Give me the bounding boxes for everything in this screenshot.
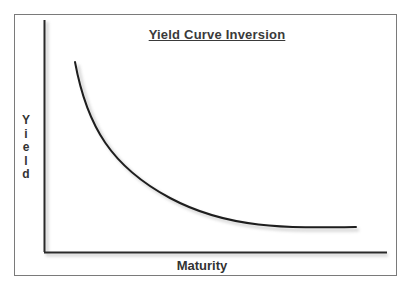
chart-plot-area [0,0,413,288]
yield-curve-line [75,62,356,227]
y-axis-label-letter: Y [22,114,30,128]
y-axis-label-letter: i [24,128,27,142]
chart-title: Yield Curve Inversion [139,27,295,42]
curve-shadow [78,65,359,230]
y-axis-label-letter: e [23,141,30,155]
y-axis-label: Y i e l d [20,114,32,182]
x-axis-label: Maturity [160,258,244,273]
y-axis-label-letter: d [22,168,29,182]
y-axis-label-letter: l [24,155,27,169]
